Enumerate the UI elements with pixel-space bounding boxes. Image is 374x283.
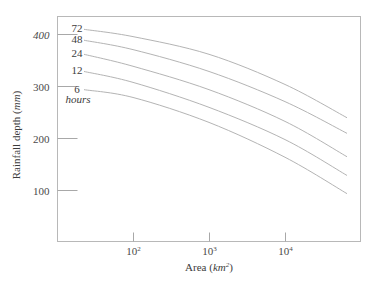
x-tick-label: 103 bbox=[202, 245, 217, 257]
curve-6-hours bbox=[84, 90, 347, 194]
x-tick-label: 102 bbox=[126, 245, 141, 257]
y-tick-label: 200 bbox=[33, 133, 50, 145]
y-tick-label: 400 bbox=[33, 29, 50, 41]
x-axis-title: Area (km2) bbox=[185, 261, 233, 274]
y-tick-label: 300 bbox=[33, 81, 50, 93]
series-label-48: 48 bbox=[72, 33, 84, 45]
curves bbox=[84, 29, 347, 193]
series-unit-label: hours bbox=[65, 93, 90, 105]
curve-24-hours bbox=[84, 54, 347, 156]
series-label-12: 12 bbox=[72, 64, 83, 76]
plot-frame bbox=[58, 17, 361, 242]
y-tick-label: 100 bbox=[33, 185, 50, 197]
rainfall-depth-area-chart: 100200300400 102103104 724824126hours Ar… bbox=[0, 0, 374, 283]
y-axis-title: Rainfall depth (mm) bbox=[10, 90, 23, 179]
series-label-24: 24 bbox=[72, 47, 84, 59]
x-axis-ticks: 102103104 bbox=[126, 233, 293, 257]
curve-48-hours bbox=[84, 40, 347, 133]
curve-12-hours bbox=[84, 71, 347, 175]
x-tick-label: 104 bbox=[278, 245, 293, 257]
